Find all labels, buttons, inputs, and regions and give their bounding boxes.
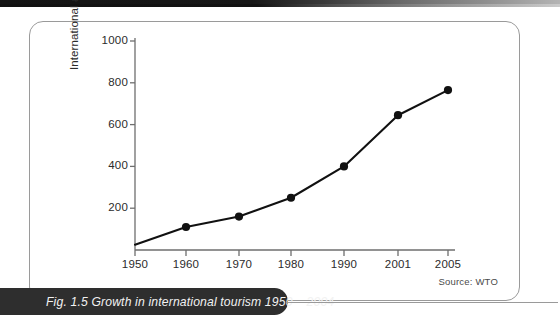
y-axis-tick-label: 200 bbox=[90, 201, 128, 213]
y-axis-tick-label: 800 bbox=[90, 76, 128, 88]
data-point-marker bbox=[235, 212, 243, 220]
figure-caption-bar: Fig. 1.5 Growth in international tourism… bbox=[0, 288, 288, 315]
x-axis-tick-label: 2001 bbox=[382, 258, 414, 270]
chart-container: International arrivals (m) 2004006008001… bbox=[0, 0, 560, 323]
data-point-marker bbox=[182, 223, 190, 231]
x-axis-tick-label: 1980 bbox=[275, 258, 307, 270]
figure-caption-text: Fig. 1.5 Growth in international tourism… bbox=[0, 295, 334, 309]
y-axis-tick-label: 600 bbox=[90, 118, 128, 130]
x-axis-tick-label: 1990 bbox=[328, 258, 360, 270]
y-axis-tick-label: 1000 bbox=[90, 34, 128, 46]
y-axis-title: International arrivals (m) bbox=[68, 0, 80, 70]
x-axis-tick-label: 1950 bbox=[119, 258, 151, 270]
data-point-marker bbox=[394, 111, 402, 119]
data-point-marker bbox=[287, 194, 295, 202]
data-point-marker bbox=[444, 86, 452, 94]
x-axis-tick-label: 1960 bbox=[170, 258, 202, 270]
figure-page: International arrivals (m) 2004006008001… bbox=[0, 0, 560, 323]
y-axis-tick-label: 400 bbox=[90, 159, 128, 171]
line-chart-svg bbox=[135, 38, 475, 258]
data-point-marker bbox=[340, 162, 348, 170]
caption-rule bbox=[286, 302, 558, 303]
plot-area bbox=[135, 38, 455, 250]
source-note: Source: WTO bbox=[438, 276, 498, 287]
x-axis-tick-label: 2005 bbox=[432, 258, 464, 270]
x-axis-tick-label: 1970 bbox=[223, 258, 255, 270]
